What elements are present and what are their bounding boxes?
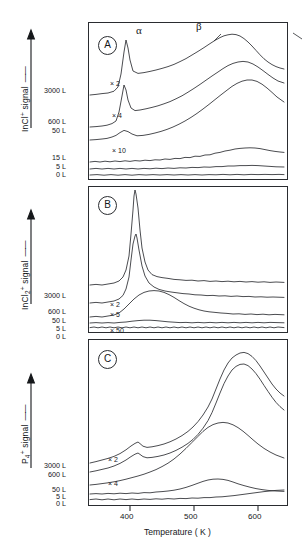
- panel-c-yaxis-charge: +: [19, 450, 26, 454]
- panel-b-exposure-3000l: 3000 L: [22, 291, 66, 300]
- panel-c-exposure-600l: 600 L: [22, 470, 66, 479]
- panel-b-trace-0l: [90, 327, 284, 328]
- panel-c-trace-600l: [90, 364, 284, 472]
- panel-a-trace-600l: [90, 61, 284, 127]
- panel-b-trace-600l: [90, 234, 284, 303]
- panel-a-exposure-15l: 15 L: [22, 153, 66, 162]
- panel-c-yaxis-count: 4: [24, 454, 31, 458]
- panel-c-yaxis-label: P4+ signal ——: [19, 406, 31, 465]
- panel-b-exposure-0l: 0 L: [22, 332, 66, 341]
- xaxis-label: Temperature ( K ): [144, 527, 211, 537]
- panel-a-trace-15l: [90, 148, 284, 162]
- panel-b-exposure-600l: 600 L: [22, 307, 66, 316]
- panel-a-exposure-50l: 50 L: [22, 126, 66, 135]
- panel-a-trace-3000l: [90, 34, 284, 95]
- panel-a-trace-0l: [90, 174, 284, 175]
- xaxis-tick-600: 600: [248, 512, 261, 521]
- panel-a-yaxis-charge: +: [19, 112, 26, 116]
- tpd-spectra-figure: A InCl+ signal —— α β 3000 L 600 L 50 L …: [0, 0, 305, 546]
- panel-c-exposure-0l: 0 L: [22, 499, 66, 508]
- panel-b-trace-5l: [90, 320, 284, 323]
- panel-a-exposure-0l: 0 L: [22, 170, 66, 179]
- panel-b-trace-50l: [90, 291, 284, 317]
- panel-b-yaxis-charge: +: [19, 286, 26, 290]
- panel-b-trace-3000l: [90, 190, 284, 285]
- panel-c-trace-3000l: [90, 352, 284, 463]
- panel-a-exposure-3000l: 3000 L: [22, 86, 66, 95]
- xaxis-tick-400: 400: [120, 512, 133, 521]
- panel-a-trace-5l: [90, 165, 284, 169]
- panel-c-yaxis-tail: signal: [20, 424, 30, 450]
- panel-c-trace-0l: [90, 490, 284, 500]
- panel-a-exposure-600l: 600 L: [22, 117, 66, 126]
- panel-a-traces: [88, 22, 288, 180]
- panel-b-yaxis-tail: signal: [20, 260, 30, 286]
- panel-b-traces: [88, 186, 288, 333]
- panel-c-exposure-3000l: 3000 L: [22, 461, 66, 470]
- panel-c-traces: [88, 339, 288, 506]
- xaxis-tick-500: 500: [184, 512, 197, 521]
- panel-c-trace-5l: [90, 479, 284, 494]
